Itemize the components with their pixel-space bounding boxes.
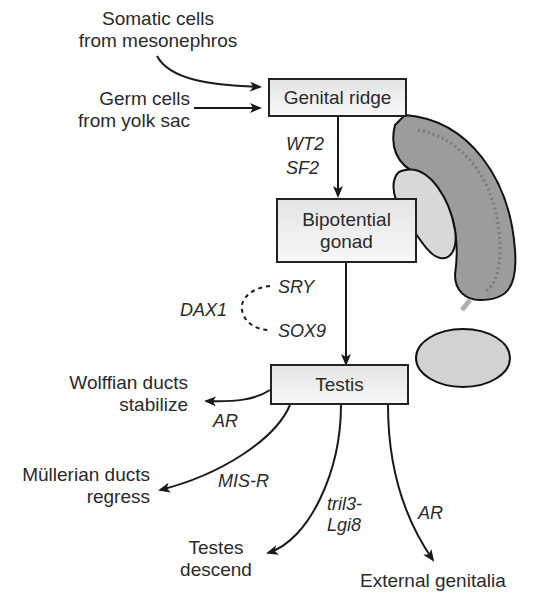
gene-wt2: WT2 <box>286 134 324 155</box>
gene-dax1: DAX1 <box>180 300 227 321</box>
gene-sry: SRY <box>278 277 314 298</box>
bipotential-gonad-box: Bipotential gonad <box>276 198 417 263</box>
gene-ar-external: AR <box>418 503 443 524</box>
gene-tril3-lgi8: tril3- Lgi8 <box>327 494 362 536</box>
germ-cells-label: Germ cells from yolk sac <box>60 88 190 132</box>
mullerian-ducts-label: Müllerian ducts regress <box>6 464 150 508</box>
gene-mis-r: MIS-R <box>218 471 269 492</box>
wolffian-ducts-label: Wolffian ducts stabilize <box>40 372 188 416</box>
somatic-cells-label: Somatic cells from mesonephros <box>66 8 250 52</box>
gene-sf2: SF2 <box>286 158 319 179</box>
genital-ridge-box: Genital ridge <box>268 78 407 117</box>
gene-ar-wolffian: AR <box>213 411 238 432</box>
testis-oval <box>416 329 510 387</box>
testes-descend-label: Testes descend <box>176 537 256 581</box>
gene-sox9: SOX9 <box>278 321 326 342</box>
external-genitalia-label: External genitalia <box>360 570 506 592</box>
testis-box: Testis <box>270 364 409 405</box>
